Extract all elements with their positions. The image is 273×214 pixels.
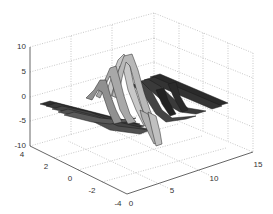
z-tick-label: 5 bbox=[22, 67, 27, 76]
y-tick-label: 0 bbox=[68, 174, 73, 183]
y-axis-labels: 4 2 0 -2 -4 bbox=[20, 150, 122, 208]
z-tick-label: -5 bbox=[19, 116, 27, 125]
y-tick-label: 2 bbox=[44, 162, 49, 171]
ribbon-plot-3d: 10 5 0 -5 -10 4 2 0 -2 -4 0 5 10 15 bbox=[0, 0, 273, 214]
x-tick-label: 15 bbox=[254, 160, 263, 169]
z-axis-labels: 10 5 0 -5 -10 bbox=[14, 42, 26, 150]
y-tick-label: -4 bbox=[114, 199, 122, 208]
z-tick-label: 0 bbox=[22, 92, 27, 101]
z-tick-label: -10 bbox=[14, 141, 26, 150]
x-tick-label: 10 bbox=[210, 174, 219, 183]
z-tick-label: 10 bbox=[17, 42, 26, 51]
x-tick-label: 5 bbox=[170, 186, 175, 195]
x-tick-label: 0 bbox=[129, 199, 134, 208]
y-tick-label: 4 bbox=[20, 150, 25, 159]
y-tick-label: -2 bbox=[88, 186, 96, 195]
x-axis-labels: 0 5 10 15 bbox=[129, 160, 263, 208]
ribbons bbox=[40, 54, 228, 146]
